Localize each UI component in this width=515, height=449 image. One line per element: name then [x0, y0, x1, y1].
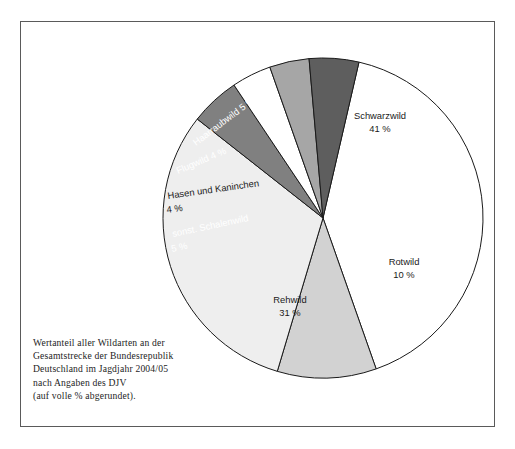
slice-label-rehwild: Rehwild: [273, 294, 306, 305]
slice-value-rehwild: 31 %: [279, 307, 300, 318]
caption-line: Gesamtstrecke der Bundesrepublik: [33, 349, 238, 362]
caption-line: Wertanteil aller Wildarten an der: [33, 336, 238, 349]
slice-value-hasen-und-kaninchen: 4 %: [166, 202, 184, 215]
caption-line: (auf volle % abgerundet).: [33, 389, 238, 402]
slice-label-schwarzwild: Schwarzwild: [354, 110, 406, 121]
caption-line: Deutschland im Jagdjahr 2004/05: [33, 362, 238, 375]
caption-line: nach Angaben des DJV: [33, 376, 238, 389]
slice-label-rotwild: Rotwild: [389, 256, 420, 267]
pie-chart-figure: Schwarzwild41 %Rotwild10 %Rehwild31 %son…: [0, 0, 515, 449]
slice-value-schwarzwild: 41 %: [369, 123, 390, 134]
pie-slices: [163, 58, 483, 378]
slice-value-rotwild: 10 %: [393, 269, 414, 280]
chart-caption: Wertanteil aller Wildarten an derGesamts…: [33, 336, 238, 402]
